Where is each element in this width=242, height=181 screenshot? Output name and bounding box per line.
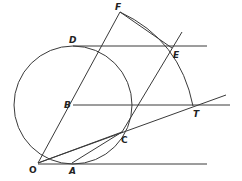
line-c-e-extended <box>122 32 182 132</box>
label-t: T <box>193 109 200 119</box>
label-b: B <box>64 100 71 110</box>
label-e: E <box>173 50 180 60</box>
label-f: F <box>115 2 122 12</box>
line-f-e <box>120 12 172 48</box>
label-a: A <box>68 166 76 176</box>
geometry-diagram: F D E B T C O A <box>0 0 242 181</box>
label-c: C <box>121 135 128 145</box>
label-o: O <box>29 165 37 175</box>
label-d: D <box>69 35 77 45</box>
